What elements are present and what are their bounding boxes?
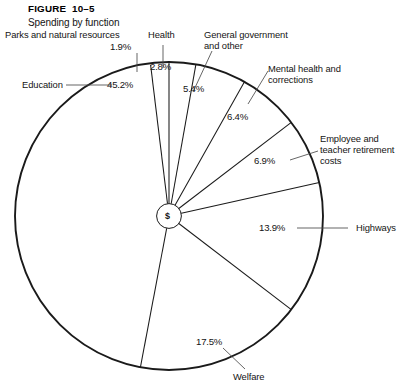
value-mental-health: 6.4% xyxy=(227,111,248,122)
label-general-government-line1: General government xyxy=(204,29,288,40)
center-dollar-symbol: $ xyxy=(165,211,170,222)
value-retirement: 6.9% xyxy=(254,155,275,166)
value-education: 45.2% xyxy=(107,79,133,90)
pie-chart-graphic xyxy=(0,0,417,388)
label-mental-health-line1: Mental health and xyxy=(268,63,341,74)
label-general-government-line2: and other xyxy=(204,40,243,51)
figure-container: FIGURE 10–5 Spending by function xyxy=(0,0,417,388)
label-parks-and-natural-resources: Parks and natural resources xyxy=(5,29,120,40)
value-general-government: 5.4% xyxy=(183,83,204,94)
label-retirement-line2: teacher retirement xyxy=(320,144,394,155)
label-retirement-line3: costs xyxy=(320,155,341,166)
label-welfare: Welfare xyxy=(233,371,264,382)
value-welfare: 17.5% xyxy=(196,336,222,347)
label-highways: Highways xyxy=(356,222,396,233)
label-health: Health xyxy=(148,29,175,40)
value-parks-and-natural-resources: 1.9% xyxy=(110,41,131,52)
value-highways: 13.9% xyxy=(259,222,285,233)
value-health: 2.8% xyxy=(150,61,171,72)
label-mental-health-line2: corrections xyxy=(268,74,313,85)
label-retirement-line1: Employee and xyxy=(320,133,379,144)
label-education: Education xyxy=(22,79,63,90)
